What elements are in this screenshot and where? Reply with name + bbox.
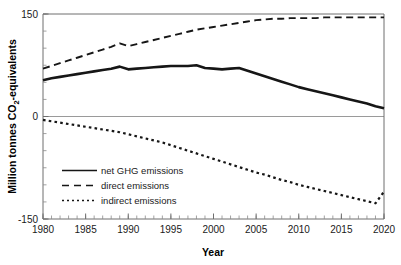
x-axis-tick-label: 2020 bbox=[373, 224, 396, 235]
x-axis-tick-label: 2015 bbox=[330, 224, 353, 235]
x-axis-tick-label: 1995 bbox=[160, 224, 183, 235]
x-axis-tick-label: 1985 bbox=[75, 224, 98, 235]
y-axis-tick-labels: 1500-150 bbox=[18, 9, 38, 225]
x-axis-title: Year bbox=[202, 246, 224, 258]
y-axis-tick-label: 150 bbox=[21, 9, 38, 20]
emissions-line-chart: 1500-150 1980198519901995200020052010201… bbox=[0, 0, 401, 265]
x-axis-tick-label: 2005 bbox=[245, 224, 268, 235]
x-axis-tick-label: 1980 bbox=[32, 224, 55, 235]
x-axis-tick-labels: 198019851990199520002005201020152020 bbox=[32, 224, 396, 235]
x-axis-tick-label: 2000 bbox=[202, 224, 225, 235]
legend-label-net-ghg-emissions: net GHG emissions bbox=[101, 165, 184, 176]
y-axis-tick-label: -150 bbox=[18, 214, 38, 225]
legend-label-direct-emissions: direct emissions bbox=[101, 180, 169, 191]
y-axis-title-prefix: Million tonnes CO bbox=[6, 105, 18, 194]
legend-label-indirect-emissions: indirect emissions bbox=[101, 195, 177, 206]
x-axis-tick-label: 2010 bbox=[288, 224, 311, 235]
chart-figure: 1500-150 1980198519901995200020052010201… bbox=[0, 0, 401, 265]
y-axis-title: Million tonnes CO2-equivalents bbox=[6, 39, 21, 194]
y-axis-tick-label: 0 bbox=[32, 111, 38, 122]
y-axis-title-suffix: -equivalents bbox=[6, 39, 18, 100]
x-axis-tick-label: 1990 bbox=[117, 224, 140, 235]
